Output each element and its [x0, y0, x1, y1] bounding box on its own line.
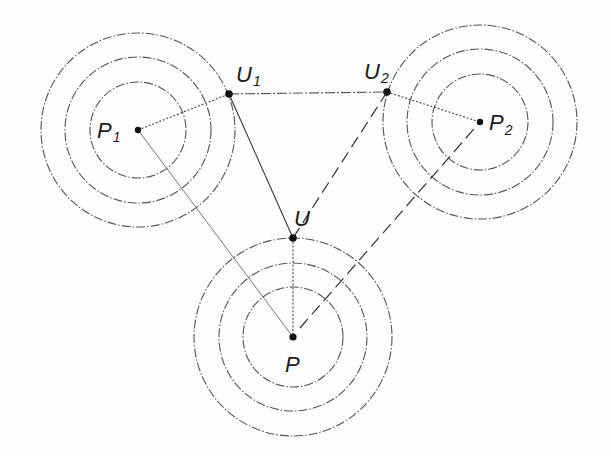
label-u2-sub: 2 — [380, 70, 389, 86]
point-u — [289, 234, 297, 242]
label-p2: P2 — [489, 110, 513, 138]
label-p1-main: P — [97, 118, 112, 143]
label-u1-sub: 1 — [253, 73, 261, 89]
label-p: P — [285, 352, 300, 377]
label-p1-sub: 1 — [113, 129, 121, 145]
label-u2-main: U — [364, 59, 380, 84]
point-u1 — [225, 90, 233, 98]
label-u1-main: U — [236, 62, 252, 87]
point-p1 — [135, 127, 141, 133]
point-p — [289, 333, 296, 340]
point-p2 — [477, 119, 483, 125]
labels: P1 P2 P U1 U2 U — [97, 59, 513, 377]
segment-u2-p2 — [387, 92, 480, 122]
segment-p1-p — [138, 130, 293, 337]
point-u2 — [383, 88, 391, 96]
label-p2-main: P — [489, 110, 504, 135]
label-u: U — [294, 206, 310, 231]
segment-p1-u1 — [138, 94, 229, 130]
segment-u1-u2 — [229, 92, 387, 94]
label-u-main: U — [294, 206, 310, 231]
segment-p-p2 — [300, 122, 480, 328]
circle-intersection-diagram: P1 P2 P U1 U2 U — [0, 0, 611, 456]
label-u2: U2 — [364, 59, 389, 86]
label-u1: U1 — [236, 62, 261, 89]
segment-u1-u — [229, 94, 293, 238]
label-p1: P1 — [97, 118, 120, 145]
label-p-main: P — [285, 352, 300, 377]
label-p2-sub: 2 — [504, 122, 513, 138]
